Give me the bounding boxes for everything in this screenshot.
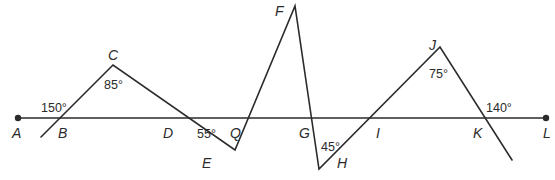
label-I: I	[376, 125, 380, 141]
endpoint-A	[15, 115, 21, 121]
label-A: A	[11, 125, 21, 141]
geometry-diagram: A B C D E F G H I J K L Q 150° 85° 55° 4…	[0, 0, 555, 180]
angle-label-B: 150°	[41, 101, 67, 115]
angle-label-C: 85°	[104, 78, 123, 92]
angle-label-J: 75°	[429, 67, 448, 81]
label-L: L	[543, 125, 551, 141]
angle-label-E: 55°	[197, 127, 216, 141]
label-D: D	[163, 125, 173, 141]
label-H: H	[337, 155, 348, 171]
label-E: E	[202, 155, 212, 171]
label-Q: Q	[230, 125, 241, 141]
angle-label-K: 140°	[486, 101, 512, 115]
label-B: B	[58, 125, 67, 141]
label-K: K	[473, 125, 483, 141]
label-F: F	[275, 3, 285, 19]
label-C: C	[108, 47, 119, 63]
label-J: J	[428, 37, 437, 53]
endpoint-L	[543, 115, 549, 121]
angle-label-H: 45°	[321, 140, 340, 154]
label-G: G	[299, 125, 310, 141]
